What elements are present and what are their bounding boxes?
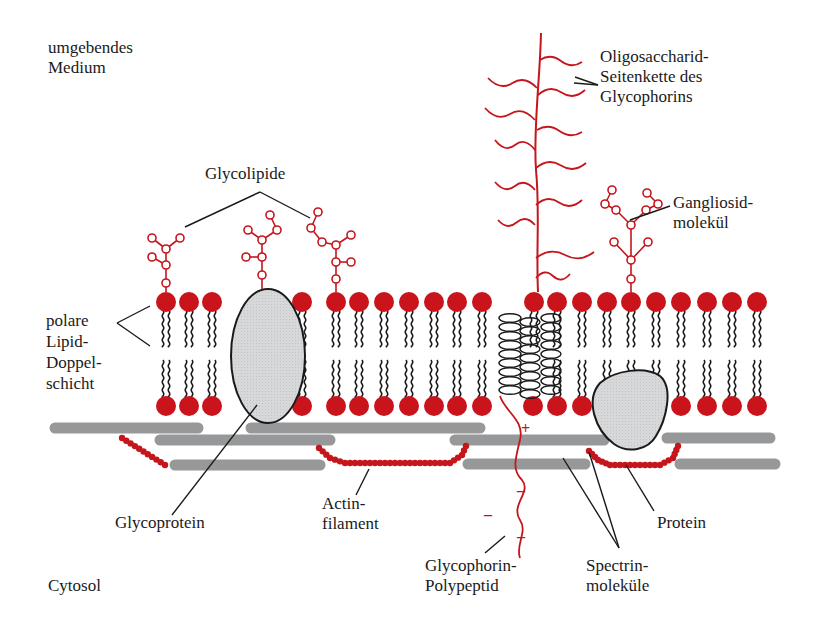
lipid-head-inner bbox=[202, 396, 222, 416]
helix-turn bbox=[499, 332, 521, 341]
glycolipid-sugar-chains bbox=[148, 186, 662, 292]
label-line: schicht bbox=[46, 373, 102, 394]
lipid-tail bbox=[430, 310, 432, 347]
helix-strand-left bbox=[499, 314, 521, 395]
lipid-tail bbox=[728, 360, 730, 398]
lipid-head-outer bbox=[597, 292, 617, 312]
plus-charge: + bbox=[521, 420, 530, 437]
helix-strand-right bbox=[541, 314, 561, 395]
lipid-head-outer bbox=[646, 292, 666, 312]
lipid-tail bbox=[361, 360, 363, 398]
oligosaccharide-branch bbox=[495, 182, 535, 190]
lipid-head-outer bbox=[399, 292, 419, 312]
lipid-head-inner bbox=[747, 396, 767, 416]
lipid-head-outer bbox=[572, 292, 592, 312]
lipid-tail bbox=[633, 310, 635, 347]
label-line: Glycoprotein bbox=[115, 513, 205, 533]
lipid-tail bbox=[168, 310, 170, 347]
lipid-tail bbox=[683, 360, 685, 398]
sugar-residue bbox=[258, 271, 266, 279]
label-line: Oligosaccharid- bbox=[600, 47, 709, 67]
lipid-tail bbox=[214, 310, 216, 347]
helix-turn bbox=[541, 368, 561, 377]
lipid-tail bbox=[191, 310, 193, 347]
sugar-residue bbox=[332, 241, 340, 249]
label-spectrin-molecules: Spectrin- moleküle bbox=[586, 556, 649, 596]
lipid-head-inner bbox=[156, 396, 176, 416]
label-oligosaccharid: Oligosaccharid- Seitenkette des Glycopho… bbox=[600, 47, 709, 107]
oligosaccharide-branch bbox=[540, 57, 582, 66]
sugar-residue bbox=[627, 275, 635, 283]
label-line: moleküle bbox=[586, 576, 649, 596]
lipid-tail bbox=[386, 360, 388, 398]
lipid-tail bbox=[185, 310, 187, 347]
lipid-head-outer bbox=[722, 292, 742, 312]
lipid-tail bbox=[677, 310, 679, 347]
label-line: umgebendes bbox=[48, 38, 133, 58]
sugar-residue bbox=[332, 275, 340, 283]
oligosaccharide-branch bbox=[536, 272, 570, 279]
helix-turn bbox=[499, 323, 521, 332]
lipid-tail bbox=[584, 360, 586, 398]
lipid-tail bbox=[338, 360, 340, 398]
helix-turn bbox=[499, 359, 521, 368]
lipid-tail bbox=[411, 360, 413, 398]
leader-line bbox=[626, 465, 654, 511]
label-line: Glycolipide bbox=[205, 164, 285, 184]
lipid-tail bbox=[162, 360, 164, 398]
lipid-head-inner bbox=[399, 396, 419, 416]
lipid-head-inner bbox=[523, 396, 543, 416]
sugar-residue bbox=[273, 226, 281, 234]
sugar-residue bbox=[266, 211, 274, 219]
lipid-tail bbox=[530, 310, 532, 347]
label-line: Glycophorin- bbox=[425, 556, 517, 576]
sugar-residue bbox=[332, 258, 340, 266]
glycolipid-middle bbox=[242, 211, 281, 289]
lipid-tail bbox=[709, 310, 711, 347]
lipid-tail bbox=[191, 360, 193, 398]
glycolipid-right bbox=[307, 208, 355, 292]
sugar-residue bbox=[643, 189, 651, 197]
lipid-head-outer bbox=[697, 292, 717, 312]
helix-turn bbox=[541, 359, 561, 368]
sugar-residue bbox=[612, 206, 620, 214]
sugar-residue bbox=[347, 231, 355, 239]
lipid-tail bbox=[453, 360, 455, 398]
helix-turn bbox=[541, 314, 561, 323]
glycolipid-left bbox=[148, 234, 184, 292]
helix-turn bbox=[520, 354, 540, 363]
lipid-head-inner bbox=[374, 396, 394, 416]
lipid-tail bbox=[411, 310, 413, 347]
oligosaccharide-branch bbox=[536, 252, 594, 259]
label-line: Cytosol bbox=[48, 576, 101, 596]
label-line: Lipid- bbox=[46, 331, 102, 352]
lipid-head-inner bbox=[326, 396, 346, 416]
sugar-residue bbox=[608, 186, 616, 194]
lipid-tail bbox=[436, 360, 438, 398]
helix-turn bbox=[499, 377, 521, 386]
lipid-tail bbox=[652, 310, 654, 347]
glycoprotein-shape bbox=[231, 289, 305, 423]
lipid-head-outer bbox=[671, 292, 691, 312]
lipid-head-outer bbox=[326, 292, 346, 312]
lipid-tail bbox=[436, 310, 438, 347]
lipid-head-outer bbox=[747, 292, 767, 312]
lipid-tail bbox=[584, 310, 586, 347]
label-line: Actin- bbox=[322, 494, 379, 514]
lipid-tail bbox=[405, 310, 407, 347]
sugar-residue bbox=[162, 261, 170, 269]
leader-line bbox=[563, 458, 619, 548]
label-lipid-bilayer: polare Lipid- Doppel- schicht bbox=[46, 310, 102, 394]
lipid-tail bbox=[703, 310, 705, 347]
oligosaccharide-branch bbox=[488, 78, 537, 88]
lipid-tail bbox=[753, 310, 755, 347]
oligosaccharide-branch bbox=[495, 140, 535, 150]
leader-line bbox=[185, 192, 260, 227]
lipid-tail bbox=[185, 360, 187, 398]
label-glycolipide: Glycolipide bbox=[205, 164, 285, 184]
lipid-tail bbox=[405, 360, 407, 398]
label-line: Doppel- bbox=[46, 352, 102, 373]
sugar-residue bbox=[627, 256, 635, 264]
lipid-head-outer bbox=[447, 292, 467, 312]
helix-turn bbox=[499, 386, 521, 395]
